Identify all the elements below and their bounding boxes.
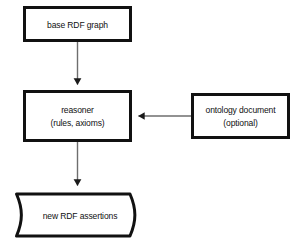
diagram-canvas (0, 0, 299, 246)
node-ontology-document[interactable] (193, 95, 289, 138)
node-new-rdf-assertions[interactable] (17, 194, 135, 236)
node-reasoner[interactable] (25, 92, 131, 141)
node-base-rdf-graph[interactable] (25, 8, 131, 41)
rdf-reasoning-diagram: base RDF graph reasoner (rules, axioms) … (0, 0, 299, 246)
